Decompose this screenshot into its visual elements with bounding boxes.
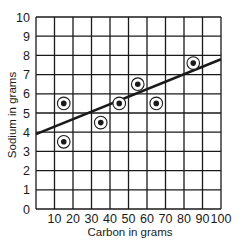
data-point-marker — [94, 116, 107, 129]
y-tick-label: 9 — [23, 30, 30, 44]
x-tick-label: 20 — [66, 212, 80, 226]
y-tick-label: 1 — [23, 183, 30, 197]
scatter-chart: 012345678910 102030405060708090100 Sodiu… — [0, 0, 240, 246]
x-tick-label: 70 — [159, 212, 173, 226]
y-tick-label: 2 — [23, 164, 30, 178]
y-axis-ticks: 012345678910 — [16, 11, 30, 217]
x-tick-label: 90 — [196, 212, 210, 226]
y-tick-label: 0 — [23, 203, 30, 217]
plot-grid — [36, 17, 221, 209]
x-axis-ticks: 102030405060708090100 — [48, 212, 232, 226]
data-point-marker — [57, 136, 70, 149]
x-tick-label: 30 — [85, 212, 99, 226]
data-point-marker — [131, 78, 144, 91]
x-tick-label: 60 — [140, 212, 154, 226]
x-tick-label: 10 — [48, 212, 62, 226]
y-tick-label: 7 — [23, 68, 30, 82]
x-tick-label: 40 — [103, 212, 117, 226]
y-tick-label: 5 — [23, 107, 30, 121]
x-tick-label: 50 — [122, 212, 136, 226]
data-point-marker — [150, 97, 163, 110]
x-axis-label: Carbon in grams — [87, 226, 172, 238]
y-axis-label: Sodium in grams — [6, 72, 18, 159]
y-tick-label: 3 — [23, 145, 30, 159]
y-tick-label: 4 — [23, 126, 30, 140]
data-point-marker — [57, 97, 70, 110]
x-tick-label: 80 — [177, 212, 191, 226]
y-tick-label: 10 — [16, 11, 30, 25]
x-tick-label: 100 — [211, 212, 232, 226]
data-point-marker — [113, 97, 126, 110]
data-point-marker — [187, 57, 200, 70]
y-tick-label: 6 — [23, 87, 30, 101]
y-tick-label: 8 — [23, 49, 30, 63]
